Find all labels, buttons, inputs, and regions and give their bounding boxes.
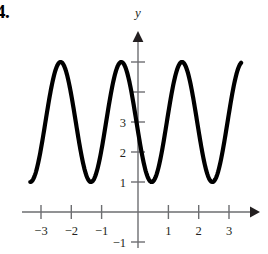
y-axis-arrow-icon [133, 31, 144, 42]
y-tick-label-1: 1 [120, 176, 126, 190]
figure-container: 4. y −3 −2 −1 1 2 3 3 2 [0, 0, 268, 254]
x-tick-label-neg1: −1 [95, 224, 108, 238]
x-tick-label-1: 1 [165, 224, 171, 238]
y-tick-label-neg1: −1 [113, 236, 126, 250]
y-tick-label-3: 3 [120, 116, 126, 130]
x-tick-label-neg3: −3 [34, 224, 47, 238]
graph-plot: y −3 −2 −1 1 2 3 3 2 1 −1 [0, 0, 268, 254]
y-axis-label: y [133, 5, 141, 20]
x-tick-label-3: 3 [226, 224, 232, 238]
curve-path [30, 62, 241, 182]
x-tick-label-neg2: −2 [65, 224, 78, 238]
y-tick-label-2: 2 [120, 146, 126, 160]
x-tick-label-2: 2 [196, 224, 202, 238]
x-axis-arrow-icon [250, 207, 260, 218]
